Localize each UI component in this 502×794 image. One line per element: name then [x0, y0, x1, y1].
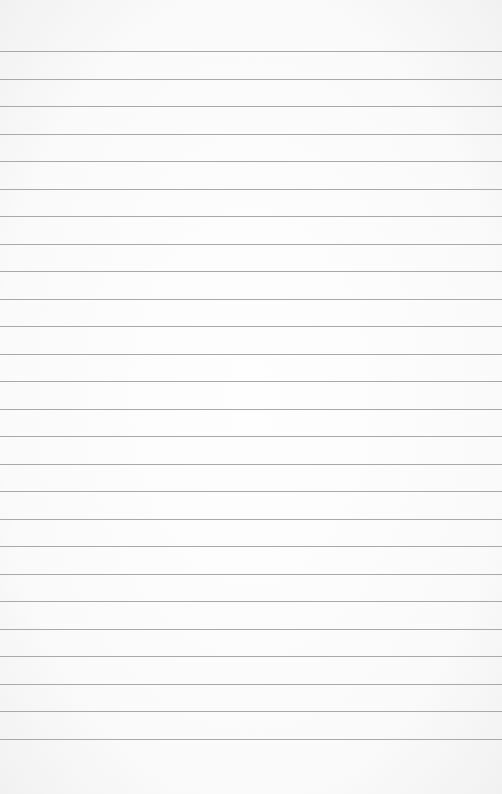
- ruled-line: [0, 216, 502, 217]
- ruled-line: [0, 271, 502, 272]
- ruled-line: [0, 161, 502, 162]
- ruled-line: [0, 546, 502, 547]
- ruled-line: [0, 299, 502, 300]
- ruled-line: [0, 629, 502, 630]
- ruled-line: [0, 464, 502, 465]
- ruled-line: [0, 519, 502, 520]
- ruled-line: [0, 656, 502, 657]
- ruled-line: [0, 326, 502, 327]
- lined-paper-sheet: [0, 0, 502, 794]
- ruled-line: [0, 711, 502, 712]
- ruled-line: [0, 354, 502, 355]
- ruled-line: [0, 51, 502, 52]
- ruled-line: [0, 106, 502, 107]
- ruled-line: [0, 739, 502, 740]
- ruled-line: [0, 381, 502, 382]
- ruled-line: [0, 134, 502, 135]
- ruled-line: [0, 491, 502, 492]
- ruled-line: [0, 684, 502, 685]
- ruled-line: [0, 189, 502, 190]
- ruled-line: [0, 409, 502, 410]
- ruled-line: [0, 244, 502, 245]
- ruled-line: [0, 601, 502, 602]
- ruled-line: [0, 79, 502, 80]
- ruled-line: [0, 436, 502, 437]
- ruled-line: [0, 574, 502, 575]
